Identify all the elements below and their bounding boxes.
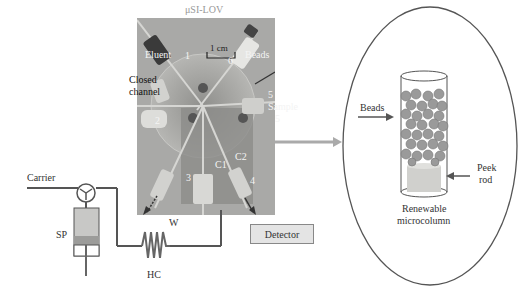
peek-rod-label-2: rod <box>479 175 492 185</box>
waste-label: W <box>169 218 178 228</box>
detector-box: Detector <box>250 224 314 244</box>
detector-label: Detector <box>265 229 299 240</box>
syringe-pump-label: SP <box>56 230 67 240</box>
microcolumn-caption-2: microcolumn <box>397 216 450 226</box>
microcolumn-caption-1: Renewable <box>402 204 446 214</box>
inset-beads-label: Beads <box>360 103 384 113</box>
flow-manifold <box>0 0 529 295</box>
holding-coil-label: HC <box>147 270 161 280</box>
peek-rod-label-1: Peek <box>477 163 496 173</box>
carrier-label: Carrier <box>27 173 55 183</box>
